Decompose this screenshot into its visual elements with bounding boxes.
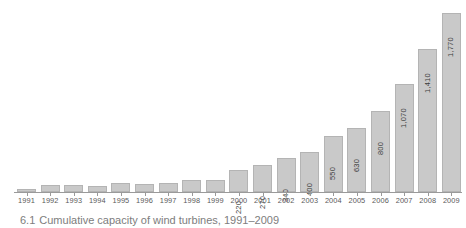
bar-rect-2006 bbox=[371, 111, 390, 192]
bar-rect-1993 bbox=[64, 185, 83, 192]
bar-rect-2007 bbox=[395, 84, 414, 192]
bar-rect-2005 bbox=[347, 128, 366, 192]
bar-rect-2008 bbox=[418, 49, 437, 192]
bar-rect-2003 bbox=[300, 152, 319, 192]
chart-plot-area: 2202703404005506308001,0701,4101,770 bbox=[14, 4, 462, 192]
figure-caption: 6.1Cumulative capacity of wind turbines,… bbox=[20, 213, 450, 228]
bar-rect-2002 bbox=[277, 158, 296, 192]
bar-rect-1992 bbox=[41, 185, 60, 192]
bar-rect-1999 bbox=[206, 180, 225, 192]
bar-rect-2001 bbox=[253, 165, 272, 192]
caption-text: Cumulative capacity of wind turbines, 19… bbox=[39, 214, 279, 226]
bar-rect-1995 bbox=[111, 183, 130, 192]
bar-rect-1998 bbox=[182, 180, 201, 192]
figure-wind-turbine-capacity: 2202703404005506308001,0701,4101,770 199… bbox=[0, 0, 466, 228]
caption-number: 6.1 bbox=[20, 214, 35, 226]
bar-rect-1997 bbox=[159, 183, 178, 192]
bar-rect-2004 bbox=[324, 136, 343, 192]
bar-rect-2000 bbox=[229, 170, 248, 192]
bar-rect-1996 bbox=[135, 184, 154, 192]
bar-rect-2009 bbox=[442, 13, 461, 192]
x-axis-label-2009: 2009 bbox=[436, 196, 466, 205]
